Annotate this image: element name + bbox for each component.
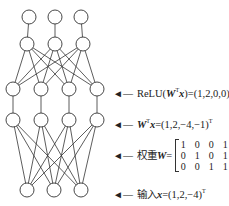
neuron-node-hidden2: [76, 37, 90, 51]
neuron-node-linear: [34, 113, 48, 127]
neuron-node-hidden2: [48, 37, 62, 51]
relu-output-label: ◄—ReLU(WTx)=(1,2,0,0)T: [113, 84, 229, 100]
neuron-node-top: [22, 10, 36, 24]
weights-label: ◄—权重W= 1001 0101 0011: [113, 139, 229, 172]
arrow-left-icon: ◄—: [113, 150, 133, 162]
arrow-left-icon: ◄—: [113, 119, 133, 131]
neuron-node-linear: [6, 113, 20, 127]
neuron-node-relu: [62, 82, 76, 96]
neuron-node-linear: [90, 113, 104, 127]
neuron-node-relu: [6, 82, 20, 96]
neuron-node-top: [74, 10, 88, 24]
linear-output-label: ◄—WTx=(1,2,−4,−1)T: [113, 115, 212, 131]
neuron-node-input: [20, 183, 34, 197]
weight-matrix: 1001 0101 0011: [175, 139, 229, 172]
neuron-node-linear: [62, 113, 76, 127]
connection-line: [81, 120, 97, 190]
connection-line: [27, 120, 97, 190]
matrix-row: 1001: [180, 139, 228, 150]
arrow-left-icon: ◄—: [113, 189, 133, 201]
neuron-node-relu: [34, 82, 48, 96]
connection-line: [13, 120, 27, 190]
input-label: ◄—输入x=(1,2,−4)T: [113, 185, 206, 201]
connection-line: [27, 120, 41, 190]
connection-line: [54, 120, 69, 190]
arrow-left-icon: ◄—: [113, 88, 133, 100]
neural-network-diagram: [0, 0, 229, 206]
neuron-node-input: [47, 183, 61, 197]
matrix-row: 0011: [180, 161, 228, 172]
matrix-row: 0101: [180, 150, 228, 161]
neuron-node-input: [74, 183, 88, 197]
neuron-node-top: [48, 10, 62, 24]
neuron-node-relu: [90, 82, 104, 96]
neuron-node-hidden2: [20, 37, 34, 51]
neurons: [6, 10, 104, 197]
connection-line: [54, 120, 97, 190]
connection-line: [27, 44, 97, 89]
